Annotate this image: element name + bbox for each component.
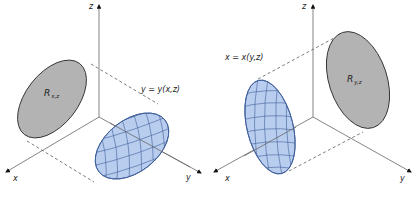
z-axis-label: z [88,2,94,11]
region-rxz [4,48,100,151]
diagram-canvas: z x y Rx,z y = y(x,z) [0,0,414,200]
projection-line-top [91,64,158,104]
projection-line-top [258,38,334,79]
surface-y-of-xz [83,98,181,192]
left-figure: z x y Rx,z y = y(x,z) [4,2,201,192]
x-axis-label: x [12,174,18,183]
surface-equation-label: y = y(x,z) [140,85,180,94]
surface-x-of-yz [236,75,304,179]
y-axis-label: y [399,174,405,183]
projection-line-bottom [289,132,363,171]
projection-line-bottom [27,141,94,182]
z-axis-label: z [301,2,307,11]
y-axis-label: y [185,173,191,182]
surface-equation-label: x = x(y,z) [224,53,263,62]
right-figure: z x y Ry,z x = x(y,z) [214,2,411,183]
x-axis-label: x [224,174,230,183]
